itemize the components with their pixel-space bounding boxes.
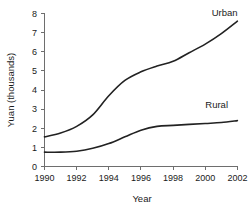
y-tick-label: 8 bbox=[32, 9, 37, 19]
x-tick-label: 1998 bbox=[163, 173, 183, 183]
y-tick-label: 1 bbox=[32, 143, 37, 153]
x-tick-label: 2002 bbox=[227, 173, 247, 183]
y-tick-label: 5 bbox=[32, 66, 37, 76]
y-tick-labels: 8 7 6 5 4 3 2 1 0 bbox=[32, 9, 37, 172]
series-label-rural: Rural bbox=[205, 99, 228, 110]
y-tick-marks bbox=[41, 14, 45, 167]
x-tick-label: 1992 bbox=[67, 173, 87, 183]
x-tick-label: 2000 bbox=[195, 173, 215, 183]
y-tick-label: 2 bbox=[32, 124, 37, 134]
series-line-rural bbox=[45, 121, 238, 153]
x-tick-labels: 1990 1992 1994 1996 1998 2000 2002 bbox=[34, 173, 247, 183]
x-axis-title: Year bbox=[132, 193, 151, 204]
y-tick-label: 6 bbox=[32, 47, 37, 57]
x-tick-label: 1996 bbox=[131, 173, 151, 183]
line-chart: 8 7 6 5 4 3 2 1 0 1990 1992 1994 1996 19… bbox=[0, 0, 252, 214]
y-tick-label: 4 bbox=[32, 85, 37, 95]
x-tick-label: 1990 bbox=[34, 173, 54, 183]
y-tick-label: 0 bbox=[32, 162, 37, 172]
chart-canvas: 8 7 6 5 4 3 2 1 0 1990 1992 1994 1996 19… bbox=[0, 0, 252, 214]
x-tick-marks bbox=[45, 167, 238, 171]
x-tick-label: 1994 bbox=[99, 173, 119, 183]
y-tick-label: 3 bbox=[32, 104, 37, 114]
y-axis-title: Yuan (thousands) bbox=[5, 53, 16, 127]
series-label-urban: Urban bbox=[212, 7, 238, 18]
y-tick-label: 7 bbox=[32, 28, 37, 38]
series-line-urban bbox=[45, 21, 238, 137]
